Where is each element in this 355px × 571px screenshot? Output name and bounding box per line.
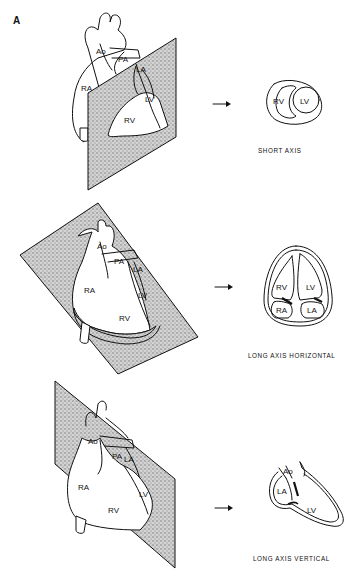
- section-label-ra: RA: [276, 306, 288, 315]
- caption-short-axis: SHORT AXIS: [258, 147, 302, 154]
- label-lv: LV: [145, 95, 155, 104]
- section-label-la: LA: [277, 487, 287, 496]
- label-ra: RA: [78, 483, 90, 492]
- label-pa: PA: [114, 257, 125, 266]
- section-label-lv: LV: [300, 97, 310, 106]
- label-ra: RA: [84, 286, 96, 295]
- label-la: LA: [136, 65, 146, 74]
- section-label-rv: RV: [273, 97, 285, 106]
- label-ao: Ao: [96, 47, 106, 56]
- section-label-la: LA: [307, 306, 317, 315]
- long-axis-horizontal-section: RV LV RA LA: [264, 246, 332, 326]
- caption-long-axis-vertical: LONG AXIS VERTICAL: [253, 555, 330, 562]
- label-pa: PA: [118, 55, 129, 64]
- arrow-icon: [215, 284, 233, 290]
- label-rv: RV: [124, 116, 136, 125]
- arrow-icon: [213, 101, 231, 107]
- label-lv: LV: [139, 490, 149, 499]
- section-label-lv: LV: [306, 283, 316, 292]
- row-long-axis-horizontal: Ao PA RA LA LV RV RV LV RA LA LONG AXIS …: [20, 203, 335, 374]
- label-pa: PA: [112, 452, 123, 461]
- label-rv: RV: [119, 314, 131, 323]
- caption-long-axis-horizontal: LONG AXIS HORIZONTAL: [248, 352, 335, 359]
- label-ao: Ao: [88, 437, 98, 446]
- panel-letter: A: [13, 15, 20, 26]
- section-label-lv: LV: [307, 506, 317, 515]
- row-short-axis: Ao PA RA LA LV RV RV LV SHORT AXIS: [72, 13, 321, 190]
- label-la: LA: [133, 265, 143, 274]
- section-label-ao: Ao: [283, 467, 293, 476]
- row-long-axis-vertical: Ao PA RA LA LV RV Ao LA LV LONG AXIS VER…: [55, 381, 343, 568]
- label-ra: RA: [81, 84, 93, 93]
- label-ao: Ao: [97, 242, 107, 251]
- short-axis-section: RV LV: [267, 80, 322, 124]
- section-label-rv: RV: [276, 283, 288, 292]
- arrow-icon: [215, 505, 233, 511]
- label-la: LA: [124, 455, 134, 464]
- label-rv: RV: [108, 506, 120, 515]
- echocardiography-planes-figure: A Ao PA RA LA LV RV: [0, 0, 355, 571]
- label-lv: LV: [138, 291, 148, 300]
- long-axis-vertical-section: Ao LA LV: [269, 462, 343, 526]
